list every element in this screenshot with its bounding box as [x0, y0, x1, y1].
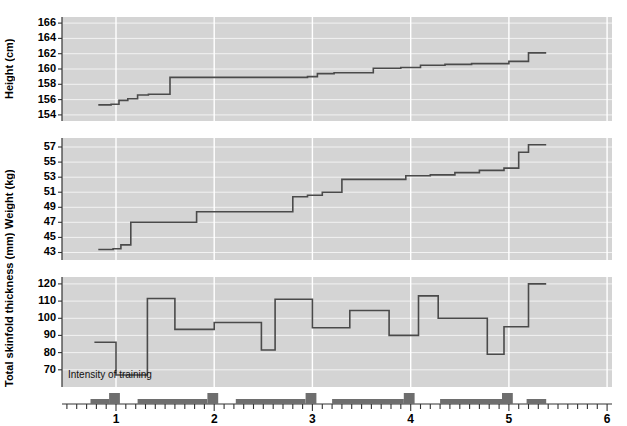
y-tick-label: 53 [18, 170, 56, 182]
intensity-bar [440, 399, 502, 404]
intensity-bar [109, 393, 120, 404]
y-tick-label: 154 [18, 108, 56, 120]
y-tick-label: 120 [18, 277, 56, 289]
x-tick-label: 2 [194, 412, 234, 426]
intensity-bar [404, 393, 415, 404]
intensity-bar [207, 393, 218, 404]
x-tick-label: 3 [292, 412, 332, 426]
intensity-bar [502, 393, 513, 404]
y-tick-label: 43 [18, 245, 56, 257]
y-tick-label: 55 [18, 155, 56, 167]
y-tick-label: 166 [18, 16, 56, 28]
y-tick-label: 80 [18, 346, 56, 358]
y-tick-label: 49 [18, 200, 56, 212]
intensity-bar [306, 393, 317, 404]
intensity-bar [91, 399, 110, 404]
x-tick-label: 6 [587, 412, 627, 426]
y-tick-label: 45 [18, 230, 56, 242]
y-tick-label: 156 [18, 93, 56, 105]
y-tick-label: 100 [18, 311, 56, 323]
x-tick-label: 5 [489, 412, 529, 426]
y-tick-label: 162 [18, 47, 56, 59]
y-tick-label: 160 [18, 62, 56, 74]
y-tick-label: 51 [18, 185, 56, 197]
y-tick-label: 70 [18, 363, 56, 375]
intensity-bar [527, 399, 547, 404]
y-tick-label: 158 [18, 77, 56, 89]
intensity-bar [332, 399, 404, 404]
intensity-bar [236, 399, 306, 404]
x-tick-label: 1 [96, 412, 136, 426]
y-tick-label: 110 [18, 294, 56, 306]
y-tick-label: 90 [18, 328, 56, 340]
y-tick-label: 164 [18, 31, 56, 43]
x-tick-label: 4 [391, 412, 431, 426]
y-tick-label: 47 [18, 215, 56, 227]
y-tick-label: 57 [18, 140, 56, 152]
intensity-bar [138, 399, 208, 404]
